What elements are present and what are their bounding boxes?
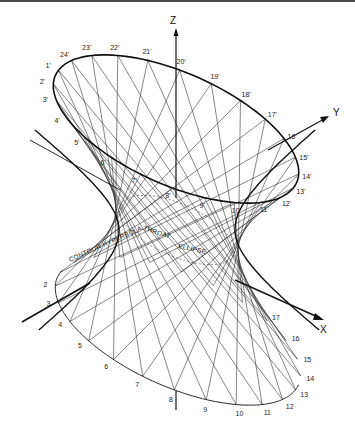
bottom-point-label: 2 xyxy=(44,281,48,288)
top-point-label: 7' xyxy=(132,177,137,184)
x-axis-arrow-icon xyxy=(313,313,324,320)
top-point-label: 18' xyxy=(242,91,251,98)
top-point-label: 22' xyxy=(110,44,119,51)
top-point-label: 16' xyxy=(288,133,297,140)
y-axis-label: Y xyxy=(333,107,340,118)
top-point-label: 11' xyxy=(260,206,269,213)
bottom-point-label: 14 xyxy=(306,375,314,382)
bottom-ellipse-front xyxy=(55,270,298,405)
top-point-label: 2' xyxy=(40,78,45,85)
top-point-label: 21' xyxy=(142,48,151,55)
top-point-label: 23' xyxy=(82,44,91,51)
top-point-label: 14' xyxy=(302,173,311,180)
top-point-label: 9' xyxy=(200,202,205,209)
top-point-label: 17' xyxy=(268,111,277,118)
top-point-label: 1' xyxy=(46,62,51,69)
top-point-label: 12' xyxy=(282,200,291,207)
bottom-point-label: 11 xyxy=(264,409,271,416)
bottom-point-label: 7 xyxy=(135,381,139,388)
bottom-point-label: 5 xyxy=(78,342,82,349)
x-axis-back-lower xyxy=(22,283,90,322)
top-point-label: 4' xyxy=(55,117,60,124)
bottom-point-label: 13 xyxy=(300,391,308,398)
top-point-label: 10' xyxy=(232,207,241,214)
bottom-point-label: 15 xyxy=(303,356,311,363)
y-axis xyxy=(268,118,326,150)
bottom-point-label: 10 xyxy=(236,410,244,417)
throat-label: THROAT xyxy=(143,224,172,239)
z-axis-arrow-icon xyxy=(174,28,179,36)
bottom-point-label: 12 xyxy=(286,403,294,410)
ruling-line xyxy=(70,197,280,321)
bottom-point-label: 9 xyxy=(203,406,207,413)
top-point-label: 19' xyxy=(210,73,219,80)
bottom-point-label: 8 xyxy=(169,396,173,403)
bottom-point-label: 3 xyxy=(47,300,51,307)
ruling-line xyxy=(72,61,286,341)
top-point-label: 20' xyxy=(177,58,186,65)
top-point-label: 5' xyxy=(74,139,79,146)
bottom-point-label: 17 xyxy=(272,314,280,321)
ruling-line xyxy=(89,60,148,340)
bottom-point-label: 16 xyxy=(292,335,300,342)
y-axis-arrow-icon xyxy=(320,116,329,123)
top-point-label: 6' xyxy=(101,159,106,166)
top-point-label: 15' xyxy=(299,154,308,161)
ruling-line xyxy=(55,203,234,286)
hyperboloid-diagram: ZYX1'2'3'4'5'6'7'8'9'10'11'12'13'14'15'1… xyxy=(0,0,355,424)
top-point-label: 8' xyxy=(165,192,170,199)
top-point-label: 13' xyxy=(296,188,305,195)
x-axis-label: X xyxy=(320,324,327,335)
top-point-label: 24' xyxy=(60,51,69,58)
ruling-line xyxy=(206,119,265,399)
bottom-point-label: 6 xyxy=(104,363,108,370)
z-axis-label: Z xyxy=(170,15,176,26)
bottom-point-label: 4 xyxy=(58,321,62,328)
top-point-label: 3' xyxy=(43,96,48,103)
contour-hyperbola-label: CONTOUR HYPERBOLA xyxy=(68,224,144,263)
